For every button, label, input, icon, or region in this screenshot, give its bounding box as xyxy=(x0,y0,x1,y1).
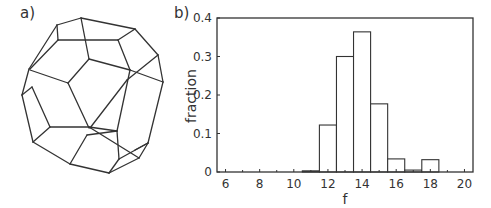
histogram-bar xyxy=(354,32,371,172)
y-tick-label: 0 xyxy=(204,165,212,179)
y-axis-label: fraction xyxy=(183,69,199,123)
x-tick-label: 6 xyxy=(222,177,230,191)
histogram-bars xyxy=(302,32,439,172)
y-tick-label: 0.1 xyxy=(193,127,212,141)
x-tick-label: 12 xyxy=(320,177,335,191)
y-tick-label: 0.4 xyxy=(193,11,212,25)
x-tick-label: 14 xyxy=(354,177,369,191)
x-tick-label: 18 xyxy=(423,177,438,191)
x-tick-label: 16 xyxy=(389,177,404,191)
y-tick-label: 0.3 xyxy=(193,50,212,64)
x-tick-label: 8 xyxy=(256,177,264,191)
histogram-chart: 68101214161820 00.10.20.30.4 f fraction xyxy=(0,0,491,208)
histogram-bar xyxy=(336,57,353,173)
x-axis-label: f xyxy=(343,191,349,207)
x-tick-label: 20 xyxy=(457,177,472,191)
x-tick-label: 10 xyxy=(286,177,301,191)
histogram-bar xyxy=(371,104,388,172)
histogram-bar xyxy=(319,125,336,172)
